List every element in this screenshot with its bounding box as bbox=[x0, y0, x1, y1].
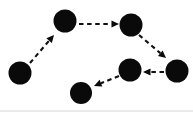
edge-n1-n2 bbox=[30, 35, 54, 63]
edge-n2-n3 bbox=[79, 20, 119, 27]
graph-node[interactable] bbox=[70, 82, 92, 104]
graph-figure bbox=[0, 0, 193, 113]
graph-canvas bbox=[0, 0, 193, 113]
edge-layer bbox=[30, 20, 166, 86]
graph-node[interactable] bbox=[54, 10, 77, 33]
edge-line bbox=[139, 35, 160, 53]
edge-line bbox=[30, 41, 49, 63]
edge-n5-n6 bbox=[94, 76, 119, 87]
graph-node[interactable] bbox=[120, 14, 143, 37]
edge-n3-n4 bbox=[139, 35, 166, 58]
bottom-rule bbox=[0, 111, 193, 112]
arrow-head-icon bbox=[112, 20, 120, 27]
graph-node[interactable] bbox=[166, 60, 189, 83]
edge-n4-n5 bbox=[143, 68, 164, 75]
edge-line bbox=[101, 76, 119, 83]
graph-node[interactable] bbox=[119, 59, 142, 82]
arrow-head-icon bbox=[143, 68, 151, 75]
graph-node[interactable] bbox=[9, 62, 32, 85]
